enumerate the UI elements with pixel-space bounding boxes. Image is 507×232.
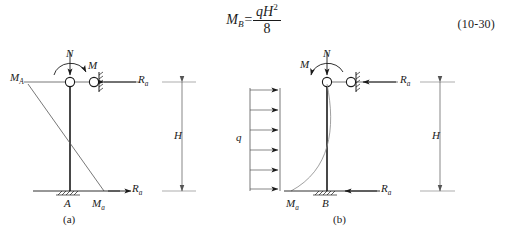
label-moment-top-left-a-subscript: A bbox=[19, 78, 23, 86]
label-reaction-base-b-symbol: R bbox=[381, 182, 388, 194]
label-support-point-b: B bbox=[322, 198, 329, 209]
formula-numerator: qH2 bbox=[253, 3, 281, 21]
label-axial-force-a: N bbox=[66, 48, 73, 59]
label-reaction-top-b-subscript: a bbox=[407, 80, 411, 88]
label-reaction-top-b: Ra bbox=[400, 74, 410, 88]
label-reaction-base-b: Ra bbox=[381, 183, 391, 197]
label-base-moment-a-symbol: M bbox=[92, 197, 101, 209]
label-reaction-base-b-subscript: a bbox=[388, 189, 392, 197]
distributed-load-arrows-b bbox=[250, 90, 278, 189]
label-base-moment-a-subscript: a bbox=[101, 204, 105, 212]
caption-figure-b: (b) bbox=[333, 214, 346, 225]
label-reaction-top-b-symbol: R bbox=[400, 73, 407, 85]
label-base-moment-b-symbol: M bbox=[286, 197, 295, 209]
moment-diagram-b bbox=[291, 84, 331, 191]
formula-denominator: 8 bbox=[253, 21, 281, 36]
formula-numerator-q: q bbox=[256, 4, 263, 19]
formula-lhs-symbol: M bbox=[226, 12, 238, 27]
label-axial-force-b: N bbox=[323, 48, 330, 59]
support-hatch-a bbox=[99, 72, 103, 91]
label-reaction-base-a-subscript: a bbox=[139, 189, 143, 197]
label-base-moment-b-subscript: a bbox=[295, 204, 299, 212]
label-reaction-top-a-subscript: a bbox=[145, 80, 149, 88]
label-height-b: H bbox=[432, 130, 440, 141]
label-height-a: H bbox=[174, 130, 182, 141]
fixed-support-hatch-b bbox=[313, 191, 337, 195]
label-base-moment-b: Ma bbox=[286, 198, 299, 212]
moment-formula: MB=qH28 bbox=[0, 4, 507, 37]
label-moment-a: M bbox=[88, 60, 97, 71]
label-moment-top-left-a-symbol: M bbox=[10, 71, 19, 83]
label-base-moment-a: Ma bbox=[92, 198, 105, 212]
label-reaction-base-a: Ra bbox=[132, 183, 142, 197]
label-reaction-base-a-symbol: R bbox=[132, 182, 139, 194]
structural-diagram-svg bbox=[0, 44, 507, 232]
hinge-circle-a-right bbox=[89, 77, 98, 86]
equation-number: (10-30) bbox=[458, 17, 495, 32]
diagram-b-group bbox=[250, 52, 455, 195]
figure-canvas: N M MA Ra H A Ma Ra (a) N M q Ra H Ma B … bbox=[0, 44, 507, 232]
label-reaction-top-a-symbol: R bbox=[138, 73, 145, 85]
support-hatch-b bbox=[356, 72, 360, 91]
diagram-a-group bbox=[24, 52, 196, 195]
equation-row: MB=qH28 (10-30) bbox=[0, 4, 507, 44]
formula-equals: = bbox=[244, 12, 253, 27]
label-distributed-load-b: q bbox=[236, 132, 242, 143]
fixed-support-hatch-a bbox=[56, 191, 80, 195]
caption-figure-a: (a) bbox=[63, 214, 75, 225]
label-support-point-a: A bbox=[64, 198, 71, 209]
label-reaction-top-a: Ra bbox=[138, 74, 148, 88]
formula-numerator-exponent: 2 bbox=[273, 2, 278, 12]
hinge-circle-b-right bbox=[346, 77, 355, 86]
label-moment-b: M bbox=[300, 59, 309, 70]
formula-fraction: qH28 bbox=[253, 3, 281, 36]
label-moment-top-left-a: MA bbox=[10, 72, 24, 86]
hinge-circle-a-left bbox=[65, 77, 74, 86]
formula-numerator-H: H bbox=[263, 4, 273, 19]
moment-diagram-a bbox=[28, 84, 104, 191]
